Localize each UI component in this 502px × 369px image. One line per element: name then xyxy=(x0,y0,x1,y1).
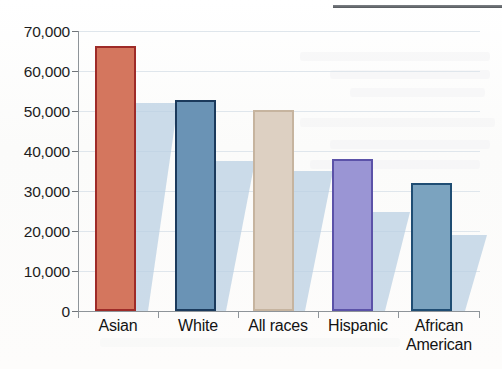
x-label-africanamerican: African American xyxy=(396,316,482,354)
x-axis-line xyxy=(78,311,480,312)
x-label-line-2: American xyxy=(406,336,472,353)
y-tick-label: 40,000 xyxy=(0,143,70,161)
bar-white xyxy=(175,100,216,311)
y-tick-label: 30,000 xyxy=(0,183,70,201)
y-tick-label: 70,000 xyxy=(0,23,70,41)
chart-figure: 70,000 60,000 50,000 40,000 30,000 20,00… xyxy=(0,0,502,369)
y-axis-line xyxy=(78,31,79,312)
y-tick-label: 50,000 xyxy=(0,103,70,121)
y-tick-label: 20,000 xyxy=(0,223,70,241)
x-label-asian: Asian xyxy=(78,316,158,335)
x-label-white: White xyxy=(158,316,238,335)
bar-asian xyxy=(95,46,136,311)
bar-allraces xyxy=(253,110,294,311)
y-tick-label: 60,000 xyxy=(0,63,70,81)
y-tick-label: 0 xyxy=(0,303,70,321)
x-label-line-1: African xyxy=(415,317,463,334)
x-label-hispanic: Hispanic xyxy=(316,316,400,335)
y-tick-label: 10,000 xyxy=(0,263,70,281)
x-label-allraces: All races xyxy=(236,316,320,335)
bar-hispanic xyxy=(332,159,373,311)
bar-africanamerican xyxy=(411,183,452,311)
